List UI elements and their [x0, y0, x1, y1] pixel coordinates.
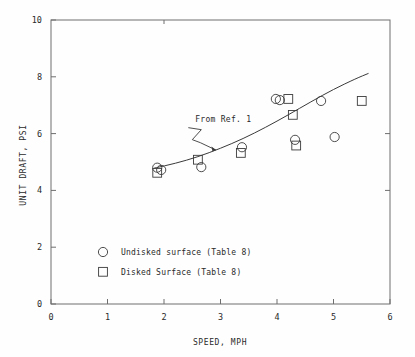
scatter-plot: 0246810 0123456 SPEED, MPH UNIT DRAFT, P… — [0, 0, 415, 357]
series-disked-markers — [153, 95, 366, 178]
reference-curve-line — [154, 73, 369, 168]
y-tick-label: 6 — [37, 129, 42, 139]
data-point-square — [284, 95, 293, 104]
y-tick-label: 4 — [37, 185, 42, 195]
y-tick-label: 2 — [37, 242, 42, 252]
x-tick-label: 6 — [387, 312, 392, 322]
y-tick-label: 10 — [32, 15, 42, 25]
x-tick-label: 2 — [161, 312, 166, 322]
legend-item-label-undisked: Undisked surface (Table 8) — [121, 248, 251, 257]
x-axis-title: SPEED, MPH — [193, 338, 247, 347]
annotation-from-ref-1: From Ref. 1 — [195, 115, 251, 124]
legend-marker-square-icon — [99, 267, 108, 276]
y-tick-label: 8 — [37, 72, 42, 82]
series-undisked-markers — [153, 94, 340, 174]
x-tick-label: 1 — [105, 312, 110, 322]
plot-frame — [51, 20, 390, 304]
legend: Undisked surface (Table 8) Disked Surfac… — [98, 247, 251, 277]
y-axis: 0246810 — [32, 15, 56, 309]
chart-container: 0246810 0123456 SPEED, MPH UNIT DRAFT, P… — [0, 0, 415, 357]
y-tick-label: 0 — [37, 299, 42, 309]
legend-item-label-disked: Disked Surface (Table 8) — [121, 268, 241, 277]
y-axis-title: UNIT DRAFT, PSI — [19, 124, 28, 205]
annotation-leader-line — [188, 128, 216, 150]
data-point-circle — [316, 96, 325, 105]
legend-marker-circle-icon — [98, 247, 107, 256]
data-point-circle — [330, 132, 339, 141]
x-tick-label: 4 — [274, 312, 279, 322]
data-point-square — [357, 97, 366, 106]
x-tick-label: 5 — [331, 312, 336, 322]
x-tick-label: 0 — [48, 312, 53, 322]
x-tick-label: 3 — [218, 312, 223, 322]
